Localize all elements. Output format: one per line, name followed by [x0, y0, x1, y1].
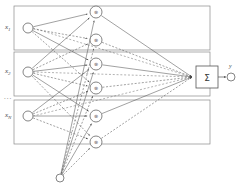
summation-box: Σ — [196, 66, 218, 88]
edge-bias-to-hidden-node-5 — [62, 124, 91, 174]
edge-input-x2-to-summation — [33, 72, 192, 77]
network-svg: ⊗⊗⊗⊗⊗⊗ Σ — [0, 0, 240, 184]
input-xN-label: xN — [5, 112, 11, 120]
edge-input-x1-to-hidden-node-4 — [32, 32, 89, 83]
input-x2[interactable] — [23, 67, 33, 77]
bias-node — [56, 174, 64, 182]
input-xN-label-sub: N — [8, 115, 11, 120]
input-x1-label-sub: 1 — [8, 27, 11, 32]
input-group-boxes — [14, 6, 210, 144]
hidden-node-6-symbol: ⊗ — [94, 139, 98, 145]
edge-input-x1-to-hidden-node-2 — [33, 29, 87, 39]
hidden-to-sum-edges — [33, 16, 192, 139]
hidden-node-4-symbol: ⊗ — [94, 85, 98, 91]
hidden-node-2-symbol: ⊗ — [94, 37, 98, 43]
input-x1-label: x1 — [5, 24, 11, 32]
edge-bias-to-hidden-node-3 — [61, 72, 93, 173]
edge-hidden-node-1-to-summation — [101, 16, 192, 77]
edge-hidden-node-3-to-summation — [102, 65, 192, 77]
edge-input-xN-to-hidden-node-6 — [33, 118, 88, 139]
edge-input-x1-to-hidden-node-3 — [33, 31, 88, 60]
input-xN[interactable] — [23, 111, 33, 121]
edge-input-xN-to-summation — [33, 77, 192, 116]
hidden-node-5-symbol: ⊗ — [94, 113, 98, 119]
edge-hidden-node-5-to-summation — [102, 77, 192, 114]
edge-input-x2-to-hidden-node-3 — [33, 65, 87, 71]
output-node-shape — [218, 73, 235, 81]
edge-input-x2-to-hidden-node-4 — [33, 73, 87, 86]
bias-to-hidden-edges — [61, 21, 94, 175]
edge-bias-to-hidden-node-6 — [63, 148, 90, 175]
input-x2-label: x2 — [5, 68, 11, 76]
edge-input-x1-to-summation — [33, 28, 192, 77]
edge-hidden-node-2-to-summation — [102, 42, 192, 77]
diagram-canvas: ⊗⊗⊗⊗⊗⊗ Σ x1x2xN...y — [0, 0, 240, 184]
hidden-node-3-symbol: ⊗ — [94, 61, 98, 67]
summation-symbol: Σ — [204, 73, 210, 83]
output-label: y — [229, 63, 232, 69]
edge-hidden-node-4-to-summation — [102, 77, 192, 87]
edge-input-x1-to-hidden-node-1 — [33, 14, 87, 27]
input-to-hidden-edges — [32, 14, 90, 139]
edge-input-x2-to-hidden-node-1 — [32, 18, 89, 69]
input-x2-label-sub: 2 — [8, 71, 11, 76]
input-x1[interactable] — [23, 23, 33, 33]
edge-bias-to-hidden-node-1 — [61, 21, 94, 174]
edge-input-x2-to-hidden-node-6 — [32, 76, 90, 136]
input-nodes — [23, 23, 33, 121]
bias-fan-origin[interactable] — [56, 174, 64, 182]
input-group-box-1 — [14, 6, 210, 50]
input-ellipsis: ... — [4, 93, 12, 101]
output-node[interactable] — [227, 73, 235, 81]
edge-hidden-node-6-to-summation — [101, 77, 192, 138]
hidden-node-1-symbol: ⊗ — [94, 9, 98, 15]
